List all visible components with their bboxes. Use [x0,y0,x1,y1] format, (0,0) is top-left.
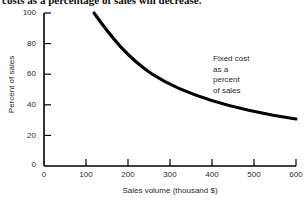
curve-annotation: Fixed cost as a percent of sales [213,54,249,96]
fixed-cost-curve [94,13,296,119]
y-tick-marks [44,13,51,135]
x-tick-label-400: 400 [199,170,225,179]
x-tick-label-200: 200 [115,170,141,179]
x-tick-marks [86,159,296,166]
y-axis-title: Percent of sales [7,45,16,125]
x-tick-label-0: 0 [31,170,57,179]
annotation-line-2: as a [213,65,249,76]
y-tick-label-20: 20 [14,131,36,140]
x-axis-title: Sales volume (thousand $) [44,186,296,195]
annotation-line-4: of sales [213,86,249,97]
y-tick-label-80: 80 [14,39,36,48]
y-tick-label-60: 60 [14,69,36,78]
x-tick-label-300: 300 [157,170,183,179]
y-tick-label-100: 100 [14,8,36,17]
annotation-line-3: percent [213,75,249,86]
annotation-line-1: Fixed cost [213,54,249,65]
y-tick-label-0: 0 [14,160,36,169]
x-tick-label-500: 500 [241,170,267,179]
x-tick-label-100: 100 [73,170,99,179]
chart-page: costs as a percentage of sales will decr… [0,0,304,202]
x-tick-label-600: 600 [283,170,304,179]
chart-figure: 100 80 60 40 20 0 0 100 200 300 400 500 … [0,0,304,202]
y-tick-label-40: 40 [14,100,36,109]
